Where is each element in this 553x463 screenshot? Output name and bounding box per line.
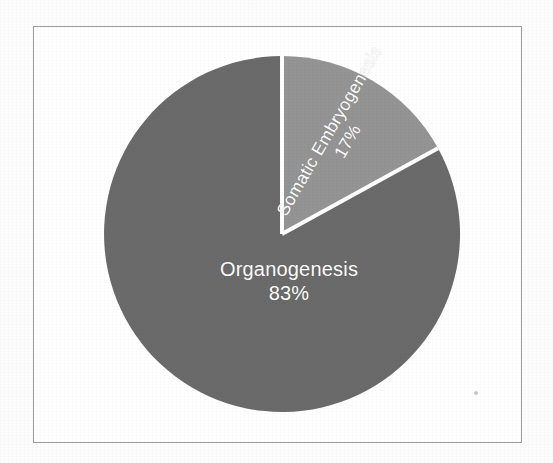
pie-chart-svg [34, 27, 521, 442]
pie-chart: Organogenesis 83% Somatic Embryogenesis … [34, 27, 521, 442]
figure-page: Organogenesis 83% Somatic Embryogenesis … [0, 0, 553, 463]
scan-artifact-speck [474, 391, 478, 395]
chart-frame-border: Organogenesis 83% Somatic Embryogenesis … [33, 26, 522, 443]
